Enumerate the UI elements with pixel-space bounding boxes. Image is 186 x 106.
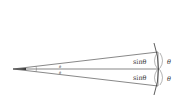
brace-right-lower bbox=[160, 70, 163, 85]
brace-left-upper bbox=[155, 53, 158, 68]
theta-label-apex-upper: θ bbox=[59, 65, 62, 69]
brace-right-upper bbox=[160, 53, 163, 68]
brace-left-lower bbox=[155, 70, 158, 85]
sin-label-lower: sinθ bbox=[133, 74, 147, 82]
theta-label-arc-lower: θ bbox=[167, 75, 171, 83]
small-angle-diagram: sinθ sinθ θ θ θ θ bbox=[0, 0, 186, 106]
sin-label-upper: sinθ bbox=[133, 58, 147, 66]
theta-label-arc-upper: θ bbox=[167, 58, 171, 66]
